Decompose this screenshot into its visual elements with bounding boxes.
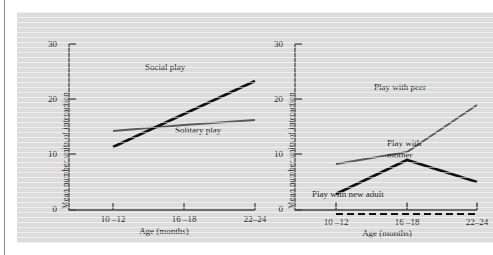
series-label-play-with-mother-line1: Play with bbox=[387, 138, 421, 148]
series-label-social-play: Social play bbox=[145, 62, 185, 73]
figure-page: Mean number units of interaction 30 20 1… bbox=[0, 0, 493, 255]
x-tick-16-18-left: 16 –18 bbox=[159, 214, 209, 224]
series-line-social-play bbox=[113, 81, 255, 147]
series-label-solitary-play: Solitary play bbox=[175, 125, 221, 136]
x-tick-10-12-left: 10 –12 bbox=[88, 214, 138, 224]
series-label-play-with-mother-line2: mother bbox=[387, 150, 413, 160]
x-tick-10-12-right: 10 –12 bbox=[311, 217, 361, 227]
page-left-rule bbox=[4, 0, 5, 255]
x-axis-label-right: Age (months) bbox=[342, 228, 432, 238]
series-label-play-with-peer: Play with peer bbox=[374, 82, 426, 93]
series-label-play-with-new-adult: Play with new adult bbox=[312, 189, 384, 200]
chart-left: Mean number units of interaction 30 20 1… bbox=[35, 12, 273, 243]
chart-left-canvas bbox=[35, 12, 273, 243]
chart-right: Mean number units of interaction 30 20 1… bbox=[264, 12, 493, 243]
x-axis-label-left: Age (months) bbox=[119, 226, 209, 236]
series-label-play-with-mother: Play with mother bbox=[387, 137, 421, 161]
figure-panel: Mean number units of interaction 30 20 1… bbox=[17, 12, 493, 243]
chart-right-canvas bbox=[264, 12, 493, 243]
x-tick-22-24-right: 22–24 bbox=[452, 217, 493, 227]
x-tick-16-18-right: 16 –18 bbox=[382, 217, 432, 227]
